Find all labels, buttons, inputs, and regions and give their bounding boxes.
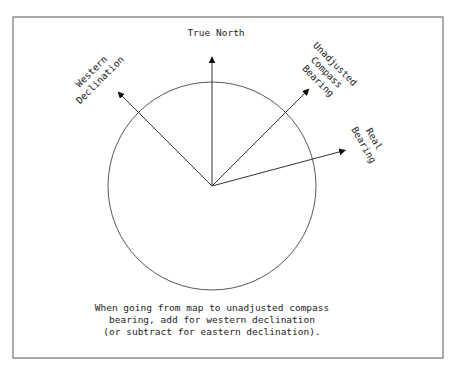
arrow-real-bearing (212, 150, 345, 186)
caption-line-2: bearing, add for western declination (109, 314, 315, 325)
arrow-unadjusted-compass-bearing (212, 89, 309, 186)
label-unadjusted-compass-bearing: Unadjusted Compass Bearing (294, 40, 359, 105)
declination-diagram: True North Western Declination Unadjuste… (0, 0, 458, 372)
arrow-western-declination (118, 92, 212, 186)
caption-line-3: (or subtract for eastern declination). (103, 326, 320, 337)
label-western-declination: Western Declination (65, 45, 126, 106)
label-true-north: True North (187, 27, 244, 38)
label-real-bearing: Real Bearing (349, 119, 389, 165)
caption-line-1: When going from map to unadjusted compas… (95, 302, 330, 313)
